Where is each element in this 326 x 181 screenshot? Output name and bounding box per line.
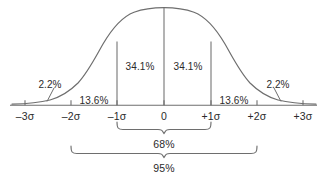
distribution-plot-svg [0,0,326,181]
sigma-divider-lines [117,8,211,105]
axis-tick-label-plus-3-sigma: +3σ [294,111,313,122]
brace-label-68-percent: 68% [153,139,174,150]
axis-tick-label-mean: 0 [161,111,167,122]
axis-tick-label-plus-2-sigma: +2σ [248,111,267,122]
region-label-mean-to-plus-1: 34.1% [174,62,203,72]
axis-tick-label-minus-2-sigma: –2σ [62,111,80,122]
region-label-plus-1-to-plus-2: 13.6% [220,96,249,106]
normal-distribution-figure: –3σ –2σ –1σ 0 +1σ +2σ +3σ 2.2% 13.6% 34.… [0,0,326,181]
region-label-minus-2-to-minus-1: 13.6% [80,96,109,106]
region-label-right-tail-2-2: 2.2% [266,80,289,90]
brace-label-95-percent: 95% [153,163,174,174]
axis-tick-label-minus-3-sigma: –3σ [16,111,34,122]
brace-68 [117,122,211,134]
region-label-minus-1-to-mean: 34.1% [126,62,155,72]
axis-tick-label-plus-1-sigma: +1σ [202,111,221,122]
region-label-left-tail-2-2: 2.2% [38,80,61,90]
axis-tick-label-minus-1-sigma: –1σ [108,111,126,122]
